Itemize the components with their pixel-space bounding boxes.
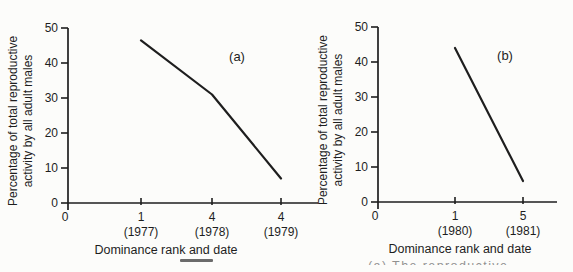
x-tick-rank-label: 5 <box>520 209 527 223</box>
y-tick-label: 10 <box>355 160 369 174</box>
y-tick-label: 50 <box>45 21 59 35</box>
x-tick-year-label: (1981) <box>506 224 541 238</box>
chart-b: 010203040501(1980)5(1981)0(b)Dominance r… <box>316 20 558 256</box>
y-tick-label: 40 <box>45 56 59 70</box>
dual-line-chart: 010203040501(1977)4(1978)4(1979)0(a)Domi… <box>0 0 573 272</box>
figure-panel: 010203040501(1977)4(1978)4(1979)0(a)Domi… <box>0 0 573 272</box>
y-tick-label: 20 <box>45 126 59 140</box>
panel-label: (b) <box>497 48 513 63</box>
panel-label: (a) <box>229 49 245 64</box>
y-axis-title-line: activity by all adult males <box>331 54 345 187</box>
origin-label: 0 <box>372 209 379 223</box>
data-line <box>141 40 281 178</box>
y-tick-label: 10 <box>45 161 59 175</box>
y-axis-title-line: Percentage of total reproductive <box>316 35 330 205</box>
data-line <box>455 48 523 181</box>
x-tick-rank-label: 1 <box>138 210 145 224</box>
x-tick-rank-label: 4 <box>278 210 285 224</box>
origin-label: 0 <box>62 210 69 224</box>
caption-cutoff-text: (a) The reproductive <box>368 259 548 265</box>
y-tick-label: 40 <box>355 55 369 69</box>
x-tick-year-label: (1977) <box>124 225 159 239</box>
x-tick-rank-label: 1 <box>452 209 459 223</box>
caption-fragment: (a) The reproductive <box>368 259 508 265</box>
y-tick-label: 30 <box>355 90 369 104</box>
y-tick-label: 20 <box>355 125 369 139</box>
y-axis-title-line: Percentage of total reproductive <box>6 36 20 206</box>
x-tick-rank-label: 4 <box>209 210 216 224</box>
x-tick-year-label: (1978) <box>195 225 230 239</box>
x-axis-title: Dominance rank and date <box>388 242 531 256</box>
y-tick-label: 0 <box>51 196 58 210</box>
y-tick-label: 30 <box>45 91 59 105</box>
caption-cutoff-mark <box>180 259 213 262</box>
x-tick-year-label: (1980) <box>438 224 473 238</box>
x-tick-year-label: (1979) <box>264 225 299 239</box>
y-tick-label: 0 <box>361 195 368 209</box>
chart-a: 010203040501(1977)4(1978)4(1979)0(a)Domi… <box>6 21 319 257</box>
y-tick-label: 50 <box>355 20 369 34</box>
y-axis-title-line: activity by all adult males <box>21 55 35 188</box>
x-axis-title: Dominance rank and date <box>94 243 237 257</box>
